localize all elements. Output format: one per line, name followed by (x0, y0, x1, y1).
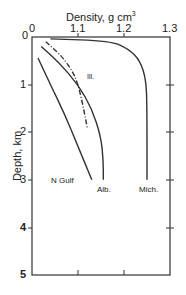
y-tick-5: 5 (20, 268, 26, 280)
series-line-ngulf (38, 58, 92, 180)
y-tick-4: 4 (20, 221, 26, 233)
x-axis-title: Density, g cm3 (66, 10, 136, 23)
y-tick-0: 0 (22, 29, 28, 41)
x-axis-title-sup: 3 (132, 10, 136, 17)
y-tick-1: 1 (20, 78, 26, 90)
x-axis-title-text: Density, g cm (66, 11, 132, 23)
series-line-mich (50, 39, 147, 180)
series-layer (38, 39, 147, 180)
x-tick-2: 1.2 (116, 22, 131, 34)
x-tick-1: 1.1 (70, 22, 85, 34)
axis-ticks (28, 33, 174, 275)
series-label-ngulf: N Gulf (51, 176, 74, 185)
y-axis-title: Depth, km (11, 121, 23, 191)
chart-canvas (0, 0, 186, 295)
series-label-alb: Alb. (97, 185, 111, 194)
series-label-ill: Ill. (87, 73, 94, 80)
plot-frame (32, 37, 170, 275)
x-tick-3: 1.3 (162, 22, 177, 34)
series-label-mich: Mich. (139, 185, 158, 194)
x-tick-0: 0 (29, 22, 35, 34)
series-line-alb (41, 47, 103, 180)
series-line-ill (46, 42, 87, 128)
